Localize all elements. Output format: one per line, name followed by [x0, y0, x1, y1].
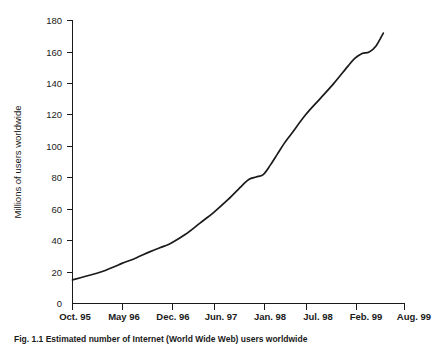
line-chart: Millions of users worldwide 180 160 140 …: [0, 0, 439, 346]
y-tick-label-160: 160: [46, 47, 62, 58]
series-line-internet-users: [73, 33, 384, 280]
x-tick-label-jun-97: Jun. 97: [205, 311, 238, 322]
y-axis-title: Millions of users worldwide: [12, 106, 23, 219]
figure-container: Millions of users worldwide 180 160 140 …: [0, 0, 439, 346]
figure-caption: Fig. 1.1 Estimated number of Internet (W…: [14, 334, 434, 345]
data-series-group: [73, 33, 384, 280]
y-tick-label-20: 20: [51, 267, 62, 278]
y-tick-label-140: 140: [46, 78, 62, 89]
y-tick-label-100: 100: [46, 141, 62, 152]
y-tick-label-60: 60: [51, 204, 62, 215]
y-tick-label-0: 0: [57, 298, 62, 309]
x-tick-label-oct-95: Oct. 95: [59, 311, 91, 322]
x-tick-label-dec-96: Dec. 96: [156, 311, 189, 322]
y-tick-label-120: 120: [46, 109, 62, 120]
x-tick-label-jul-98: Jul. 98: [303, 311, 333, 322]
y-tick-label-180: 180: [46, 15, 62, 26]
x-tick-label-aug-99: Aug. 99: [397, 311, 431, 322]
y-axis-group: 180 160 140 120 100 80 60 40 20 0: [46, 15, 72, 309]
x-tick-label-feb-99: Feb. 99: [350, 311, 383, 322]
y-axis-title-group: Millions of users worldwide: [12, 106, 23, 219]
y-tick-label-80: 80: [51, 172, 62, 183]
x-tick-label-jan-98: Jan. 98: [254, 311, 286, 322]
x-tick-label-may-96: May 96: [108, 311, 140, 322]
x-axis-group: Oct. 95 May 96 Dec. 96 Jun. 97 Jan. 98 J…: [59, 304, 431, 323]
y-tick-label-40: 40: [51, 235, 62, 246]
